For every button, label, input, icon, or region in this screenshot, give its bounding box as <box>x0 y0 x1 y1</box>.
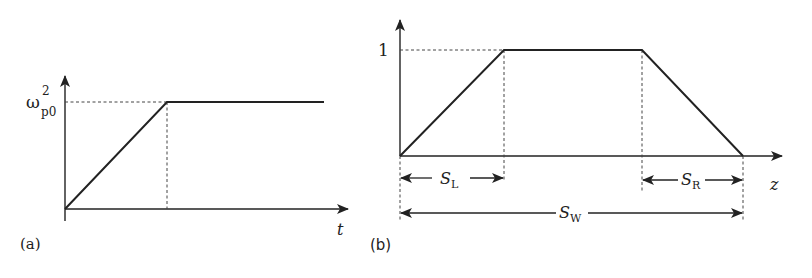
panel-b-sw-dimension: SW <box>401 203 742 225</box>
panel-b-sw-label: SW <box>559 203 582 225</box>
panel-a-y-level-superscript: 2 <box>42 84 50 98</box>
figure-canvas: ω 2 p0 t (a) 1 z SL <box>0 0 812 278</box>
panel-b-y-level-label: 1 <box>378 40 389 60</box>
panel-b-trapezoid-curve <box>400 50 743 156</box>
panel-b-x-axis-label: z <box>769 175 779 194</box>
panel-a-y-level-subscript: p0 <box>41 105 56 119</box>
panel-a-label: (a) <box>20 235 41 253</box>
panel-b: 1 z SL SR SW (b) <box>370 20 782 254</box>
panel-b-label: (b) <box>370 236 391 254</box>
panel-b-sr-label: SR <box>681 170 701 192</box>
panel-a-x-axis-label: t <box>337 220 344 239</box>
panel-b-sr-dimension: SR <box>643 170 742 192</box>
panel-a-y-level-label: ω <box>26 92 40 112</box>
panel-a: ω 2 p0 t (a) <box>20 76 348 253</box>
panel-a-ramp-plateau-curve <box>65 102 324 209</box>
panel-b-sl-dimension: SL <box>401 169 503 191</box>
panel-b-sl-label: SL <box>440 169 459 191</box>
